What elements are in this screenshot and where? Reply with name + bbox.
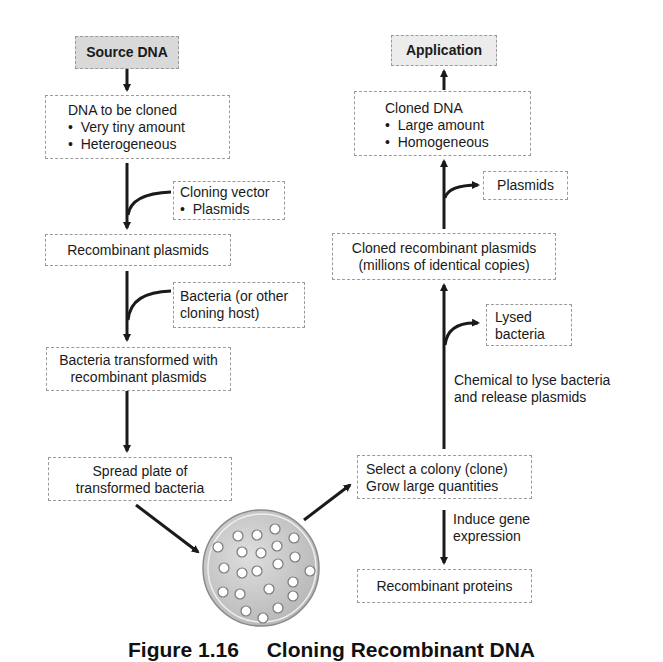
transformed-bacteria-box: Bacteria transformed with recombinant pl… <box>46 347 231 391</box>
recombinant-plasmids-label: Recombinant plasmids <box>67 242 209 258</box>
arrow-dna-to-recombinant <box>127 163 171 228</box>
cloned-dna-title: Cloned DNA <box>385 100 530 117</box>
dna-to-clone-bullet-2: • Heterogeneous <box>68 136 229 153</box>
cloned-recombinant-line-2: (millions of identical copies) <box>333 257 555 274</box>
induce-expression-label: Induce gene expression <box>453 511 530 545</box>
plasmids-output-box: Plasmids <box>483 171 568 200</box>
source-dna-label: Source DNA <box>86 44 168 60</box>
application-box: Application <box>391 35 497 66</box>
select-colony-line-2: Grow large quantities <box>366 478 531 495</box>
cloning-vector-box: Cloning vector • Plasmids <box>173 181 285 220</box>
cloned-recombinant-box: Cloned recombinant plasmids (millions of… <box>332 233 556 280</box>
recombinant-plasmids-box: Recombinant plasmids <box>45 234 231 266</box>
dna-to-clone-title: DNA to be cloned <box>68 102 229 119</box>
figure-caption: Figure 1.16 Cloning Recombinant DNA <box>0 638 663 662</box>
arrow-recombinant-to-transformed <box>127 271 171 340</box>
transformed-line-2: recombinant plasmids <box>47 369 230 386</box>
lysed-line-1: Lysed <box>495 309 571 326</box>
petri-dish-icon <box>203 510 319 626</box>
dna-to-clone-box: DNA to be cloned • Very tiny amount • He… <box>45 95 230 159</box>
arrow-select-to-cloned-recombinant <box>444 285 478 449</box>
cloning-host-box: Bacteria (or other cloning host) <box>173 282 305 328</box>
lysed-bacteria-box: Lysed bacteria <box>486 304 572 346</box>
source-dna-box: Source DNA <box>75 36 179 69</box>
cloned-dna-bullet-2: • Homogeneous <box>385 134 530 151</box>
spread-plate-line-1: Spread plate of <box>49 463 231 480</box>
cloned-dna-bullet-1: • Large amount <box>385 117 530 134</box>
cloning-vector-title: Cloning vector <box>180 184 284 201</box>
transformed-line-1: Bacteria transformed with <box>47 352 230 369</box>
arrow-cloned-recombinant-to-dna <box>444 161 478 229</box>
recombinant-proteins-box: Recombinant proteins <box>357 569 532 603</box>
figure-number: Figure 1.16 <box>128 638 239 661</box>
application-label: Application <box>406 42 482 58</box>
select-colony-box: Select a colony (clone) Grow large quant… <box>357 455 532 499</box>
arrow-dish-to-select <box>304 485 350 520</box>
dna-to-clone-bullet-1: • Very tiny amount <box>68 119 229 136</box>
figure-title: Cloning Recombinant DNA <box>267 638 535 661</box>
cloned-recombinant-line-1: Cloned recombinant plasmids <box>333 240 555 257</box>
plasmids-output-label: Plasmids <box>497 177 554 193</box>
select-colony-line-1: Select a colony (clone) <box>366 461 531 478</box>
cloning-vector-bullet-1: • Plasmids <box>180 201 284 218</box>
spread-plate-box: Spread plate of transformed bacteria <box>48 457 232 501</box>
arrow-spread-to-dish <box>136 505 198 552</box>
cloned-dna-box: Cloned DNA • Large amount • Homogeneous <box>354 91 531 156</box>
recombinant-proteins-label: Recombinant proteins <box>376 578 512 594</box>
spread-plate-line-2: transformed bacteria <box>49 480 231 497</box>
cloning-host-line-2: cloning host) <box>180 305 304 322</box>
chemical-lyse-label: Chemical to lyse bacteria and release pl… <box>454 372 610 406</box>
lysed-line-2: bacteria <box>495 326 571 343</box>
cloning-host-line-1: Bacteria (or other <box>180 288 304 305</box>
